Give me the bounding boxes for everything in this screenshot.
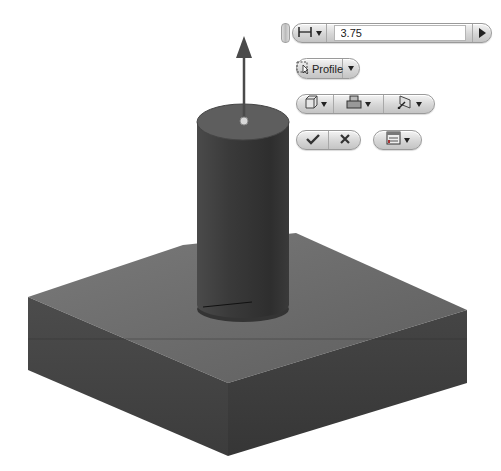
options-menu[interactable] <box>373 130 422 150</box>
chevron-down-icon <box>365 102 371 107</box>
solid-output-icon <box>304 95 318 113</box>
direction-icon <box>397 95 413 113</box>
distance-control <box>292 23 492 43</box>
operation-dropdown[interactable] <box>334 95 384 113</box>
profile-dropdown[interactable] <box>343 59 358 78</box>
cancel-button[interactable] <box>329 131 360 149</box>
direction-dropdown[interactable] <box>384 95 434 113</box>
feature-options-group <box>296 94 435 114</box>
ok-button[interactable] <box>297 131 329 149</box>
output-dropdown[interactable] <box>297 95 334 113</box>
select-profile-icon <box>296 60 310 78</box>
chevron-down-icon <box>348 66 354 71</box>
chevron-down-icon <box>404 138 410 143</box>
manipulator-origin[interactable] <box>240 117 248 125</box>
chevron-down-icon <box>321 102 327 107</box>
profile-label: Profile <box>312 63 343 75</box>
options-list-icon <box>386 131 401 149</box>
cylinder-side[interactable] <box>197 122 289 318</box>
play-arrow-icon <box>479 28 486 38</box>
options-button[interactable] <box>374 131 421 149</box>
graphics-viewport[interactable] <box>0 0 501 471</box>
extrude-arrow-head[interactable] <box>236 36 252 58</box>
chevron-down-icon <box>416 102 422 107</box>
distance-input[interactable] <box>334 25 466 41</box>
distance-type-dropdown[interactable] <box>293 24 327 42</box>
apply-distance-button[interactable] <box>473 24 491 42</box>
ok-cancel-group <box>296 130 361 150</box>
chevron-down-icon <box>316 31 322 36</box>
x-icon <box>339 131 351 149</box>
checkmark-icon <box>306 131 320 149</box>
join-operation-icon <box>346 95 362 113</box>
mini-toolbar-grip[interactable] <box>281 23 290 43</box>
model-view <box>0 0 501 471</box>
dimension-distance-icon <box>298 24 313 42</box>
profile-selector: Profile <box>296 58 360 79</box>
profile-button[interactable]: Profile <box>297 59 343 78</box>
